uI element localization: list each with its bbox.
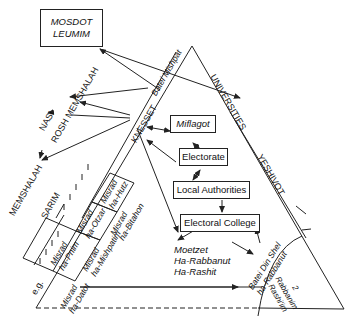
miflagot-box: Miflagot (170, 115, 216, 133)
local-authorities-box: Local Authorities (173, 181, 250, 199)
moetzet-label: MoetzetHa-RabbanutHa-Rashit (174, 244, 231, 277)
leumim-label: LEUMIM (41, 28, 102, 40)
mosdot-label: MOSDOT (41, 16, 102, 28)
electoral-college-box: Electoral College (180, 214, 260, 232)
electorate-box: Electorate (179, 148, 228, 166)
mosdot-leumim-box: MOSDOT LEUMIM (40, 9, 103, 47)
diagram-canvas: MOSDOT LEUMIM Miflagot Electorate Local … (0, 0, 353, 322)
